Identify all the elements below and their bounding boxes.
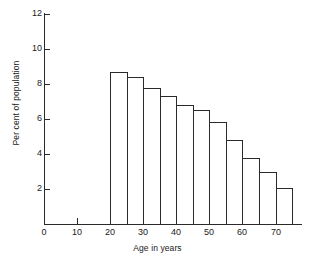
- histogram-bar: [110, 72, 128, 224]
- y-tick-12: [45, 14, 50, 15]
- y-tick-2: [45, 189, 50, 190]
- x-tick-label-10: 10: [67, 227, 87, 237]
- y-tick-4: [45, 154, 50, 155]
- histogram-bar: [176, 105, 194, 224]
- y-tick-label-10: 10: [18, 44, 42, 53]
- histogram-bar: [276, 188, 293, 224]
- histogram-bar: [143, 88, 161, 224]
- x-tick-label-60: 60: [232, 227, 252, 237]
- y-tick-8: [45, 84, 50, 85]
- x-axis-line: [44, 224, 302, 225]
- x-tick-label-50: 50: [199, 227, 219, 237]
- x-axis-title: Age in years: [0, 243, 315, 253]
- histogram-bar: [160, 96, 177, 224]
- histogram-bar: [226, 140, 243, 224]
- y-axis-title: Per cent of population: [11, 43, 21, 163]
- x-tick-label-70: 70: [266, 227, 286, 237]
- y-tick-label-8: 8: [18, 79, 42, 88]
- histogram-bar: [259, 172, 277, 224]
- y-tick-label-6: 6: [18, 114, 42, 123]
- x-tick-label-30: 30: [133, 227, 153, 237]
- histogram-bar: [127, 77, 144, 224]
- y-tick-label-2: 2: [18, 184, 42, 193]
- histogram-chart: 24681012 010203040506070 Per cent of pop…: [0, 0, 315, 262]
- x-tick-label-0: 0: [34, 227, 54, 237]
- y-tick-6: [45, 119, 50, 120]
- histogram-bar: [193, 110, 210, 224]
- y-tick-label-4: 4: [18, 149, 42, 158]
- x-tick-label-20: 20: [100, 227, 120, 237]
- x-tick-10: [77, 218, 78, 224]
- y-tick-10: [45, 49, 50, 50]
- histogram-bar: [242, 158, 260, 224]
- y-tick-label-12: 12: [18, 9, 42, 18]
- histogram-bar: [209, 122, 227, 224]
- x-tick-label-40: 40: [166, 227, 186, 237]
